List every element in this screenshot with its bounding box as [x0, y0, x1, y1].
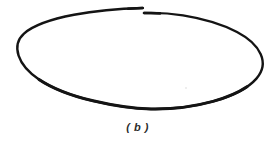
ellipse-main-arc: [17, 8, 262, 109]
figure-panel: ( b ): [0, 0, 275, 145]
figure-caption: ( b ): [0, 120, 275, 134]
ellipse-gap-upper-tail: [128, 8, 143, 9]
scan-speck-artifact: [185, 87, 187, 89]
ellipse-bottom-weight: [39, 79, 247, 109]
